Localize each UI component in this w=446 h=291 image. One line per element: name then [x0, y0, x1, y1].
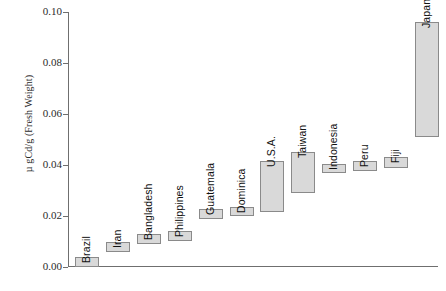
- bar-category-label: Fiji: [390, 150, 401, 164]
- y-axis-tick-mark: [63, 267, 68, 268]
- y-axis-tick-label: 0.08: [18, 57, 62, 68]
- y-axis-tick-mark: [63, 165, 68, 166]
- y-axis-line: [68, 12, 69, 267]
- bar-category-label: U.S.A.: [266, 136, 277, 167]
- bar-category-label: Japan: [421, 0, 432, 28]
- bar-category-label: Bangladesh: [143, 183, 154, 239]
- bar-category-label: Taiwan: [297, 125, 308, 158]
- y-axis-tick-mark: [63, 12, 68, 13]
- plot-area: BrazilIranBangladeshPhilippinesGuatemala…: [68, 12, 438, 267]
- x-axis-line: [68, 266, 438, 267]
- bar-category-label: Indonesia: [328, 123, 339, 169]
- chart-figure: µ gCd/g (Fresh Weight) 0.100.080.060.040…: [0, 0, 446, 291]
- bar-category-label: Brazil: [81, 236, 92, 263]
- y-axis-tick-label: 0.06: [18, 108, 62, 119]
- bar-category-label: Dominica: [236, 168, 247, 213]
- bar: [260, 161, 284, 212]
- bar-category-label: Peru: [359, 145, 370, 168]
- bar-category-label: Iran: [112, 230, 123, 249]
- y-axis-tick-mark: [63, 216, 68, 217]
- y-axis-tick-mark: [63, 63, 68, 64]
- y-axis-tick-label: 0.02: [18, 210, 62, 221]
- y-axis-tick-label: 0.04: [18, 159, 62, 170]
- bar: [415, 22, 439, 137]
- y-axis-tick-labels: 0.100.080.060.040.020.00: [12, 12, 62, 267]
- bar-category-label: Guatemala: [205, 163, 216, 215]
- y-axis-tick-mark: [63, 114, 68, 115]
- y-axis-tick-label: 0.00: [18, 261, 62, 272]
- y-axis-tick-label: 0.10: [18, 6, 62, 17]
- bar: [291, 152, 315, 193]
- bar-category-label: Philippines: [174, 185, 185, 237]
